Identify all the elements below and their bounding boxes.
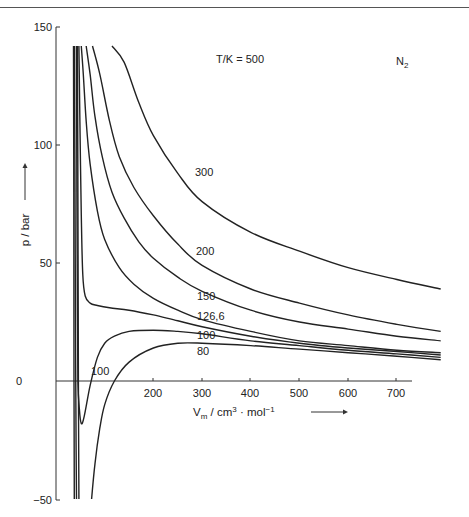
x-tick-400: 400 [241,387,259,399]
isotherm-100 [77,46,441,424]
substance-label: N2 [396,55,409,70]
isotherm-200 [86,46,441,341]
x-tick-600: 600 [339,387,357,399]
legend-title: T/K = 500 [216,53,264,65]
x-axis [56,378,412,381]
x-axis-title: Vm / cm3 · mol−1 [193,405,348,421]
isotherm-low1 [77,46,79,499]
curve-label-300: 300 [195,166,213,178]
curve-label-200: 200 [196,245,214,257]
curve-label-150: 150 [197,290,215,302]
y-axis [56,27,60,500]
isotherm-500 [112,46,441,289]
y-tick-100: 100 [34,139,52,151]
y-tick-minus-50: −50 [33,494,52,506]
x-tick-500: 500 [290,387,308,399]
isotherm-curves [74,46,441,499]
x-tick-300: 300 [193,387,211,399]
x-arrow-head-icon [343,410,348,415]
isotherm-chart: 150 100 50 0 −50 200 300 400 500 600 700… [0,0,469,517]
isotherm-300 [93,46,441,331]
y-tick-150: 150 [34,21,52,33]
x-axis-label: Vm / cm3 · mol−1 [193,405,275,421]
curve-label-80: 80 [197,345,209,357]
y-axis-title: p / bar [19,163,31,246]
y-tick-0: 0 [16,375,22,387]
y-arrow-head-icon [23,163,28,168]
x-tick-200: 200 [144,387,162,399]
curve-label-100-low: 100 [91,365,109,377]
isotherm-80b [92,343,441,499]
isotherm-low2 [74,46,75,499]
curve-label-100: 100 [197,329,215,341]
y-axis-label: p / bar [19,214,31,247]
curve-label-126-6: 126,6 [197,310,225,322]
y-tick-50: 50 [40,257,52,269]
x-tick-700: 700 [387,387,405,399]
isotherm-126-6 [79,46,441,355]
